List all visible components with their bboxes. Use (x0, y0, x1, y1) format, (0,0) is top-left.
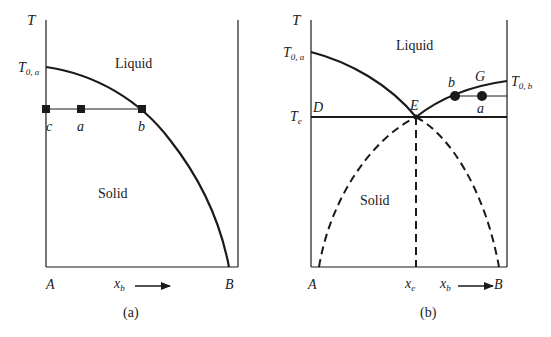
panel-a-x-left-label: A (45, 277, 55, 292)
panel-b-t0b-label: T0, b (511, 74, 533, 91)
panel-a-caption: (a) (123, 305, 139, 321)
panel-b-marker-b (450, 91, 460, 101)
panel-a-t0a-label: T0, a (18, 60, 40, 77)
panel-b-te-label: Te (290, 109, 302, 126)
panel-a-x-right-label: B (225, 277, 234, 292)
panel-a-y-axis-label: T (27, 12, 37, 28)
panel-b-point-a-label: a (477, 101, 484, 116)
panel-b-liquidus-a-curve (311, 52, 416, 117)
panel-b-y-axis-label: T (292, 12, 302, 28)
panel-a-x-variable-label: xb (113, 276, 125, 293)
panel-a-liquidus-curve (46, 67, 229, 267)
panel-b-dashed-left-curve (319, 117, 416, 267)
panel-a-point-a-label: a (77, 119, 84, 134)
panel-b-point-e-label: E (409, 98, 419, 113)
panel-b-point-g-label: G (475, 69, 485, 84)
panel-b: T T0, a T0, b Te Liquid Solid D E G b a … (283, 12, 533, 321)
panel-a-liquid-label: Liquid (115, 56, 152, 71)
panel-b-x-left-label: A (307, 277, 317, 292)
panel-b-liquidus-b-curve (416, 81, 507, 117)
panel-b-point-b-label: b (448, 75, 455, 90)
panel-b-eutectic-point (414, 115, 419, 120)
panel-b-point-d-label: D (312, 100, 323, 115)
panel-b-t0a-label: T0, a (283, 45, 305, 62)
panel-b-x-variable-label: xb (439, 276, 451, 293)
panel-a-point-c-label: c (46, 119, 53, 134)
panel-a-marker-a (77, 105, 85, 113)
panel-a-point-b-label: b (138, 119, 145, 134)
panel-a-solid-label: Solid (98, 186, 128, 201)
panel-b-marker-a (477, 91, 487, 101)
panel-b-dashed-right-curve (416, 117, 499, 267)
panel-b-x-right-label: B (494, 277, 503, 292)
panel-b-xe-label: xe (404, 276, 415, 293)
panel-b-solid-label: Solid (360, 193, 390, 208)
panel-b-caption: (b) (420, 305, 437, 321)
panel-a: T T0, a Liquid Solid c a b A B xb (a) (18, 12, 238, 321)
panel-a-marker-b (138, 105, 146, 113)
phase-diagrams: T T0, a Liquid Solid c a b A B xb (a) (0, 0, 551, 337)
panel-b-liquid-label: Liquid (396, 38, 433, 53)
panel-a-marker-c (42, 105, 50, 113)
